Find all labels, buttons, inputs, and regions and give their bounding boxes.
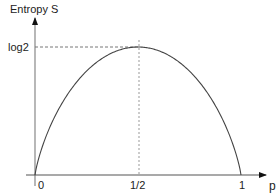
x-tick-half: 1/2 — [130, 179, 145, 191]
x-tick-0: 0 — [38, 179, 44, 191]
y-tick-log2: log2 — [8, 41, 29, 53]
entropy-curve — [35, 47, 241, 175]
entropy-chart: Entropy S log2 0 1/2 1 p — [0, 0, 278, 195]
x-axis-label: p — [269, 179, 276, 193]
x-tick-1: 1 — [239, 179, 245, 191]
y-axis-label: Entropy S — [10, 3, 58, 15]
